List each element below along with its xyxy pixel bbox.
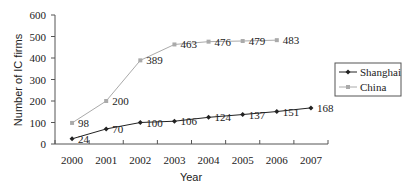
- x-tick-label: 2001: [95, 154, 117, 166]
- y-tick-label: 200: [30, 95, 47, 107]
- data-label: 137: [249, 109, 266, 121]
- y-tick-label: 400: [30, 52, 47, 64]
- data-label: 200: [112, 95, 129, 107]
- x-tick-label: 2003: [163, 154, 186, 166]
- x-tick-label: 2007: [300, 154, 323, 166]
- square-marker-icon: [70, 121, 74, 125]
- diamond-marker-icon: [138, 120, 143, 125]
- square-marker-icon: [104, 99, 108, 103]
- diamond-marker-icon: [274, 109, 279, 114]
- data-label: 389: [146, 54, 163, 66]
- diamond-marker-icon: [206, 115, 211, 120]
- square-marker-icon: [241, 39, 245, 43]
- data-label: 168: [317, 102, 334, 114]
- y-tick-label: 0: [41, 138, 47, 150]
- legend-label: Shanghai: [360, 66, 401, 78]
- data-label: 483: [283, 34, 300, 46]
- diamond-marker-icon: [70, 136, 75, 141]
- data-label: 106: [180, 115, 197, 127]
- diamond-marker-icon: [240, 112, 245, 117]
- x-tick-label: 2004: [198, 154, 221, 166]
- diamond-marker-icon: [104, 126, 109, 131]
- legend-label: China: [360, 81, 386, 93]
- data-label: 100: [146, 117, 163, 129]
- y-tick-label: 300: [30, 74, 47, 86]
- data-label: 24: [78, 133, 90, 145]
- data-label: 151: [283, 106, 300, 118]
- square-marker-icon: [138, 58, 142, 62]
- x-tick-label: 2006: [266, 154, 289, 166]
- x-tick-label: 2002: [129, 154, 151, 166]
- data-label: 479: [249, 35, 266, 47]
- x-axis-title: Year: [180, 171, 203, 183]
- x-tick-label: 2005: [232, 154, 255, 166]
- data-label: 463: [180, 38, 197, 50]
- data-label: 476: [215, 36, 232, 48]
- plot-series: 2470100106124137151168982003894634764794…: [70, 34, 334, 145]
- data-label: 98: [78, 117, 90, 129]
- series-shanghai: 2470100106124137151168: [70, 102, 334, 145]
- y-axis-title: Number of IC firms: [12, 33, 24, 126]
- line-chart: 0100200300400500600 20002001200220032004…: [0, 0, 415, 192]
- diamond-marker-icon: [172, 119, 177, 124]
- x-tick-label: 2000: [61, 154, 84, 166]
- y-tick-label: 500: [30, 31, 47, 43]
- x-axis: 20002001200220032004200520062007: [55, 140, 328, 166]
- square-marker-icon: [172, 42, 176, 46]
- square-marker-icon: [275, 38, 279, 42]
- legend: ShanghaiChina: [335, 63, 401, 96]
- diamond-marker-icon: [308, 105, 313, 110]
- y-axis: 0100200300400500600: [30, 9, 56, 150]
- data-label: 70: [112, 123, 124, 135]
- data-label: 124: [215, 111, 232, 123]
- y-tick-label: 600: [30, 9, 47, 21]
- square-marker-icon: [346, 85, 350, 89]
- y-tick-label: 100: [30, 117, 47, 129]
- square-marker-icon: [207, 40, 211, 44]
